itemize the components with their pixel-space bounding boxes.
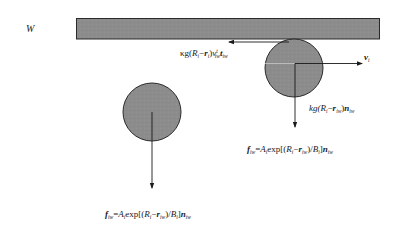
velocity-label: vi [364,53,370,62]
body-compression-label: kg(Ri−riw)niw [309,104,355,113]
force-diagram-canvas [0,0,400,229]
iw-subscript: iw [186,214,191,220]
exp-open: exp[( [125,209,144,219]
repulsive-formula-right: fiw=Aiexp[(Ri−riw)/Bi]niw [247,145,333,154]
exp-open: exp[( [267,144,286,154]
kg-text: kg( [309,103,321,113]
iw-subscript: iw [222,53,227,59]
repulsive-formula-left: fiw=Aiexp[(Ri−riw)/Bi]niw [105,210,191,219]
iw-subscript: iw [328,149,333,155]
wall-bar [77,19,380,40]
iw-subscript: iw [349,108,354,114]
kappa-g-text: κg( [180,48,192,58]
particle-touching-wall [265,39,323,97]
wall-label: W [26,23,34,34]
i-subscript: i [368,57,370,63]
tangential-friction-label: κg(Ri−ri)vtiwtiw [180,49,228,58]
